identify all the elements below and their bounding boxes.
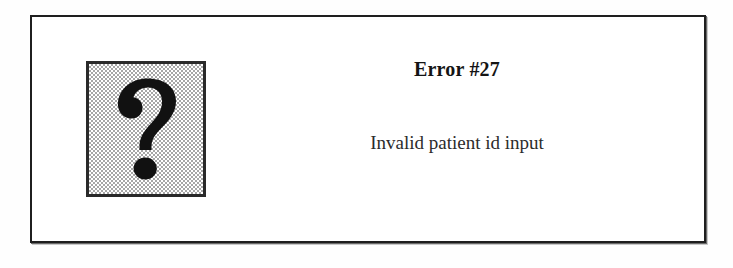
question-mark-glyph-wrap <box>89 64 203 194</box>
question-mark-icon-svg <box>111 76 181 182</box>
question-mark-icon <box>86 61 206 197</box>
error-dialog: Error #27 Invalid patient id input <box>30 15 706 243</box>
scanned-page-canvas: Error #27 Invalid patient id input <box>0 0 733 268</box>
dialog-text-column: Error #27 Invalid patient id input <box>222 37 692 155</box>
dialog-body: Error #27 Invalid patient id input <box>32 17 704 241</box>
error-title: Error #27 <box>222 37 692 81</box>
error-message: Invalid patient id input <box>222 81 692 155</box>
